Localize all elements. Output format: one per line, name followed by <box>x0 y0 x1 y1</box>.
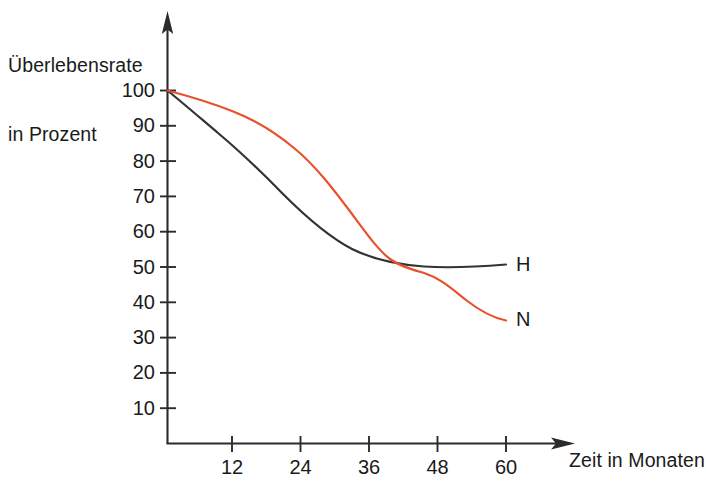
x-tick-label-48: 48 <box>415 456 461 480</box>
y-tick-label-50: 50 <box>95 256 155 280</box>
y-tick-label-70: 70 <box>95 185 155 209</box>
series-line-n <box>168 91 507 321</box>
series-label-h: H <box>516 253 546 277</box>
series-label-n: N <box>516 308 546 332</box>
y-tick-label-90: 90 <box>95 114 155 138</box>
y-tick-label-10: 10 <box>95 397 155 421</box>
y-tick-label-100: 100 <box>95 79 155 103</box>
survival-rate-chart: Überlebensrate in Prozent Zeit in Monate… <box>0 0 706 492</box>
x-tick-label-36: 36 <box>346 456 392 480</box>
y-tick-label-40: 40 <box>95 291 155 315</box>
series-line-h <box>168 91 507 268</box>
y-tick-label-30: 30 <box>95 326 155 350</box>
x-tick-label-24: 24 <box>278 456 324 480</box>
x-axis-title: Zeit in Monaten <box>569 449 705 472</box>
y-tick-label-80: 80 <box>95 150 155 174</box>
y-tick-label-20: 20 <box>95 361 155 385</box>
y-axis-title-line1: Überlebensrate <box>8 54 143 77</box>
x-tick-label-12: 12 <box>209 456 255 480</box>
x-tick-label-60: 60 <box>483 456 529 480</box>
y-tick-label-60: 60 <box>95 220 155 244</box>
